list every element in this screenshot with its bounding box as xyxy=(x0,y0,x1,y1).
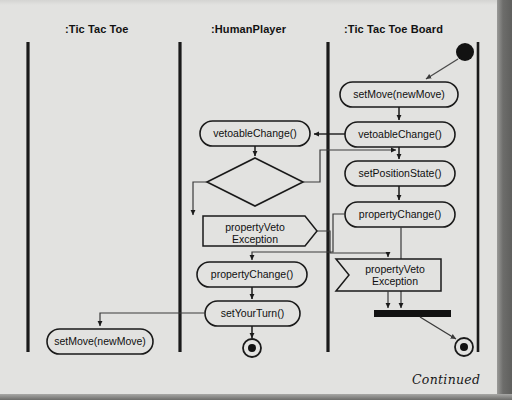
decision-node[interactable] xyxy=(207,158,303,206)
edge-join-to-final-board xyxy=(420,317,456,339)
edge-initial-to-set-move xyxy=(426,59,458,79)
action-set-position-state[interactable] xyxy=(345,161,455,186)
page-bottom-edge xyxy=(0,394,512,400)
final-node-board-dot xyxy=(460,343,468,351)
action-vetoable-change-board[interactable] xyxy=(345,122,455,147)
page-right-edge xyxy=(497,0,512,400)
action-set-move-game[interactable] xyxy=(47,329,153,354)
action-property-change-human[interactable] xyxy=(197,262,307,287)
receive-signal-property-veto-exception-board[interactable] xyxy=(336,259,441,291)
final-node-human-dot xyxy=(248,344,256,352)
edge-decision-to-veto-send xyxy=(193,182,207,215)
send-signal-property-veto-exception-human[interactable] xyxy=(203,216,317,246)
edge-set-your-turn-to-game-set-move xyxy=(100,313,205,326)
initial-node xyxy=(456,43,474,61)
continued-note: Continued xyxy=(412,372,480,387)
action-set-your-turn[interactable] xyxy=(205,301,300,326)
action-vetoable-change-human[interactable] xyxy=(200,121,310,146)
action-property-change-board[interactable] xyxy=(345,202,455,227)
diagram-vector-layer xyxy=(0,0,512,400)
action-set-move-board[interactable] xyxy=(340,82,458,107)
join-bar xyxy=(374,310,451,317)
diagram-canvas: :Tic Tac Toe :HumanPlayer :Tic Tac Toe B… xyxy=(0,0,512,400)
